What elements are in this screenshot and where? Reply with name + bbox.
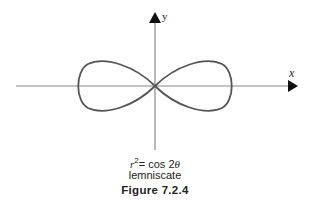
x-axis-arrow-icon <box>288 80 298 92</box>
y-axis-arrow-icon <box>149 12 161 23</box>
y-axis-label: y <box>162 10 168 22</box>
x-axis-label: x <box>289 66 294 81</box>
curve-name: lemniscate <box>0 169 310 181</box>
equation-theta: θ <box>175 158 180 170</box>
figure-caption: Figure 7.2.4 <box>0 184 310 196</box>
equation-rest: = cos 2 <box>139 158 175 170</box>
equation: r2= cos 2θ <box>0 156 310 170</box>
